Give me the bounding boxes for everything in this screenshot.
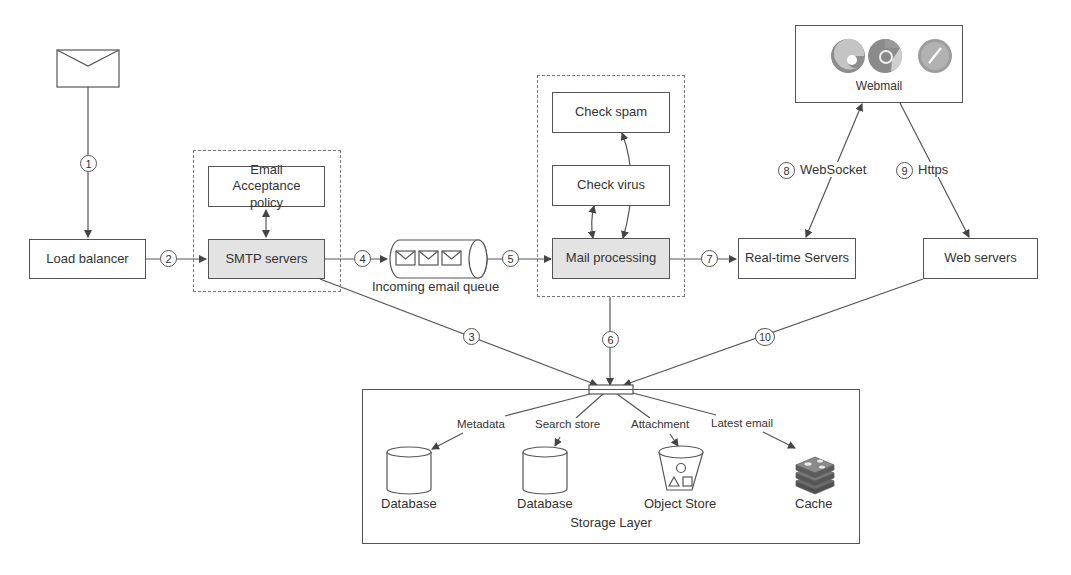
step-4-marker: 4 (354, 250, 371, 267)
email-acceptance-policy-label: Email Acceptance policy (215, 162, 318, 211)
metadata-edge-label: Metadata (457, 418, 505, 430)
step-6-marker: 6 (602, 331, 619, 348)
webmail-label: Webmail (856, 79, 902, 94)
email-acceptance-policy[interactable]: Email Acceptance policy (208, 166, 325, 207)
mail-processing-label: Mail processing (566, 250, 656, 266)
load-balancer[interactable]: Load balancer (29, 239, 146, 279)
metadata-db-label: Database (381, 496, 437, 511)
step-1-marker: 1 (80, 155, 97, 172)
latest-email-edge-label: Latest email (711, 417, 773, 429)
step-2-marker: 2 (160, 250, 177, 267)
incoming-queue-label: Incoming email queue (372, 279, 499, 294)
websocket-edge-label: WebSocket (800, 162, 866, 177)
realtime-servers[interactable]: Real-time Servers (738, 238, 856, 279)
webmail[interactable]: Webmail (795, 25, 963, 103)
step-3-marker: 3 (463, 328, 480, 345)
storage-layer: Storage Layer (362, 389, 860, 544)
realtime-servers-label: Real-time Servers (745, 250, 849, 266)
queue-cylinder-icon (390, 240, 487, 278)
check-spam-label: Check spam (575, 104, 647, 120)
check-spam[interactable]: Check spam (552, 92, 670, 133)
step-10-marker: 10 (755, 328, 775, 346)
cache-label: Cache (795, 496, 833, 511)
object-store-label: Object Store (644, 496, 716, 511)
step-7-marker: 7 (701, 250, 718, 267)
mail-processing[interactable]: Mail processing (552, 238, 670, 279)
attachment-edge-label: Attachment (631, 418, 689, 430)
step-9-marker: 9 (896, 162, 913, 179)
smtp-servers-label: SMTP servers (225, 251, 307, 267)
email-icon (57, 50, 119, 87)
search-db-label: Database (517, 496, 573, 511)
storage-layer-label: Storage Layer (570, 515, 652, 531)
check-virus[interactable]: Check virus (552, 165, 670, 206)
step-5-marker: 5 (502, 250, 519, 267)
https-edge-label: Https (918, 162, 948, 177)
check-virus-label: Check virus (577, 177, 645, 193)
step-8-marker: 8 (778, 162, 795, 179)
smtp-servers[interactable]: SMTP servers (208, 239, 325, 279)
search-store-edge-label: Search store (535, 418, 600, 430)
web-servers[interactable]: Web servers (923, 238, 1038, 279)
web-servers-label: Web servers (944, 250, 1017, 266)
load-balancer-label: Load balancer (46, 251, 128, 267)
